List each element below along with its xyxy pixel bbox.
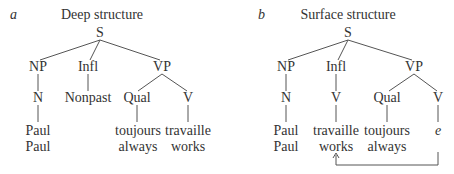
node-vp-a: VP [153, 60, 171, 74]
node-np-a: NP [29, 60, 47, 74]
panel-letter-b: b [258, 8, 265, 22]
panel-letter-a: a [10, 8, 17, 22]
leaf-paul-en-a: Paul [26, 140, 51, 154]
node-n-a: N [33, 91, 43, 105]
leaf-paul-en-b: Paul [274, 140, 299, 154]
leaf-always-b: always [368, 140, 407, 154]
syntax-tree-figure: a Deep structure S NP Infl VP N Nonpast … [0, 0, 454, 174]
node-v-b: V [433, 91, 443, 105]
leaf-works-b: works [319, 140, 353, 154]
node-s-a: S [96, 26, 104, 40]
node-infl-b: Infl [326, 60, 346, 74]
node-infl-a: Infl [78, 60, 98, 74]
leaf-paul-fr-b: Paul [274, 124, 299, 138]
panel-title-a: Deep structure [61, 8, 143, 22]
leaf-travaille-b: travaille [313, 124, 359, 138]
node-qual-a: Qual [123, 91, 150, 105]
branch-s-vp-b [348, 40, 412, 60]
branch-vp-qual-b [389, 74, 414, 91]
branch-vp-v-b [414, 74, 437, 91]
node-s-b: S [344, 26, 352, 40]
leaf-trace-e-b: e [435, 124, 441, 138]
node-v-a: V [183, 91, 193, 105]
node-infl-v-b: V [331, 91, 341, 105]
leaf-works-a: works [171, 140, 205, 154]
leaf-always-a: always [119, 140, 158, 154]
branch-vp-v-a [162, 74, 187, 91]
branch-vp-qual-a [138, 74, 162, 91]
node-nonpast-a: Nonpast [65, 91, 112, 105]
node-np-b: NP [277, 60, 295, 74]
leaf-travaille-a: travaille [165, 124, 211, 138]
node-qual-b: Qual [373, 91, 400, 105]
leaf-paul-fr-a: Paul [26, 124, 51, 138]
node-n-b: N [281, 91, 291, 105]
leaf-toujours-a: toujours [115, 124, 161, 138]
leaf-toujours-b: toujours [364, 124, 410, 138]
panel-title-b: Surface structure [300, 8, 395, 22]
node-vp-b: VP [405, 60, 423, 74]
branch-s-vp-a [100, 40, 160, 60]
